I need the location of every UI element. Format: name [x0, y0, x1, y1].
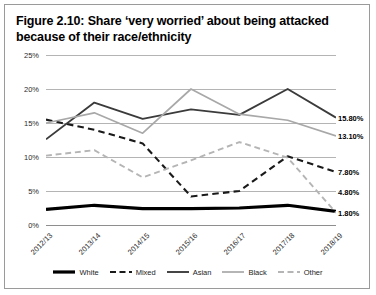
series-line-other — [46, 142, 336, 213]
series-end-labels: 15.80%13.10%7.80%1.80%4.80% — [338, 55, 376, 225]
legend-swatch-white-icon — [53, 268, 75, 276]
legend-item-white[interactable]: White — [53, 268, 98, 277]
gridline — [46, 225, 336, 226]
legend-swatch-black-icon — [222, 268, 244, 276]
legend-item-asian[interactable]: Asian — [167, 268, 212, 277]
chart-legend: WhiteMixedAsianBlackOther — [5, 263, 371, 281]
y-axis-tick-label: 20% — [13, 85, 39, 94]
y-axis-tick-label: 0% — [13, 221, 39, 230]
y-axis: 0%5%10%15%20%25% — [13, 55, 39, 225]
legend-swatch-other-icon — [278, 268, 300, 276]
series-end-label: 7.80% — [338, 167, 359, 176]
legend-item-mixed[interactable]: Mixed — [110, 268, 156, 277]
y-axis-tick-label: 5% — [13, 187, 39, 196]
y-axis-tick-label: 15% — [13, 119, 39, 128]
legend-label: Other — [304, 268, 323, 277]
series-line-white — [46, 205, 336, 211]
y-axis-tick-label: 10% — [13, 153, 39, 162]
series-end-label: 13.10% — [338, 131, 363, 140]
legend-swatch-asian-icon — [167, 268, 189, 276]
line-chart-canvas — [46, 55, 336, 225]
y-axis-tick-label: 25% — [13, 51, 39, 60]
legend-label: Mixed — [136, 268, 156, 277]
series-end-label: 4.80% — [338, 188, 359, 197]
legend-label: Black — [248, 268, 266, 277]
series-end-label: 15.80% — [338, 113, 363, 122]
legend-label: White — [79, 268, 98, 277]
figure-panel: Figure 2.10: Share ‘very worried’ about … — [4, 4, 370, 289]
series-end-label: 1.80% — [338, 208, 359, 217]
series-line-mixed — [46, 120, 336, 197]
legend-item-other[interactable]: Other — [278, 268, 323, 277]
chart-plot-area: 0%5%10%15%20%25% 2012/132013/142014/1520… — [5, 55, 369, 255]
legend-swatch-mixed-icon — [110, 268, 132, 276]
figure-title: Figure 2.10: Share ‘very worried’ about … — [16, 14, 346, 45]
legend-item-black[interactable]: Black — [222, 268, 266, 277]
legend-label: Asian — [193, 268, 212, 277]
